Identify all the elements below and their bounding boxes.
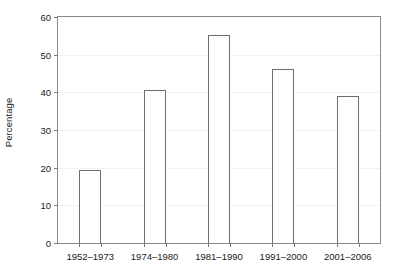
y-axis-tick (54, 130, 58, 131)
x-axis-tick (144, 243, 145, 247)
bar (272, 69, 294, 243)
bar (337, 96, 359, 243)
x-axis-tick (166, 243, 167, 247)
y-axis-title-text: Percentage (4, 97, 15, 147)
x-axis-tick (294, 243, 295, 247)
plot-area: 0102030405060 1952–19731974–19801981–199… (57, 16, 381, 244)
x-axis-tick (230, 243, 231, 247)
y-axis-title: Percentage (0, 0, 18, 244)
x-axis-tick (79, 243, 80, 247)
y-axis-tick (54, 55, 58, 56)
y-axis-tick (54, 243, 58, 244)
y-axis-tick-label: 50 (40, 49, 51, 60)
y-axis-tick (54, 205, 58, 206)
x-axis-tick (208, 243, 209, 247)
x-axis-category-label: 1981–1990 (195, 251, 243, 262)
x-axis-category-label: 2001–2006 (324, 251, 372, 262)
y-axis-tick-label: 40 (40, 87, 51, 98)
x-axis-tick (272, 243, 273, 247)
x-axis-category-label: 1952–1973 (66, 251, 114, 262)
x-axis-tick (101, 243, 102, 247)
x-axis-category-label: 1974–1980 (131, 251, 179, 262)
y-axis-tick-label: 0 (46, 238, 51, 249)
x-axis-category-label: 1991–2000 (260, 251, 308, 262)
bar (208, 35, 230, 243)
x-axis-tick (337, 243, 338, 247)
bar-chart: Percentage 0102030405060 1952–19731974–1… (0, 0, 396, 275)
y-axis-tick-label: 10 (40, 200, 51, 211)
y-axis-tick (54, 17, 58, 18)
plot-surface: 0102030405060 1952–19731974–19801981–199… (58, 17, 380, 243)
y-axis-tick (54, 92, 58, 93)
bar (79, 170, 101, 243)
y-axis-tick-label: 60 (40, 12, 51, 23)
x-axis-tick (359, 243, 360, 247)
y-axis-tick (54, 168, 58, 169)
y-axis-tick-label: 30 (40, 125, 51, 136)
bar (144, 90, 166, 243)
y-axis-tick-label: 20 (40, 162, 51, 173)
